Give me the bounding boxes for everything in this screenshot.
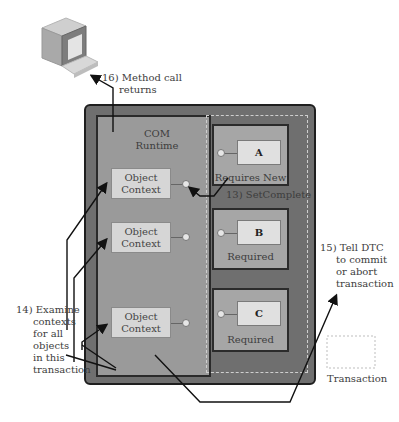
step-14-line: transaction bbox=[16, 364, 91, 376]
step-15-line: to commit bbox=[320, 254, 394, 266]
step-14-label: 14) Examine contexts for all objects in … bbox=[16, 304, 91, 376]
step-14-line: for all bbox=[16, 328, 91, 340]
step-15-line: or abort bbox=[320, 266, 394, 278]
step-15-line: transaction bbox=[320, 278, 394, 290]
step-14-line: in this bbox=[16, 352, 91, 364]
step-16-line2: returns bbox=[102, 84, 182, 96]
step-14-line: 14) Examine bbox=[16, 304, 91, 316]
step-16-label: 16) Method call returns bbox=[102, 72, 182, 96]
legend-transaction-label: Transaction bbox=[327, 373, 387, 385]
step-15-label: 15) Tell DTC to commit or abort transact… bbox=[320, 242, 394, 290]
step-15-line: 15) Tell DTC bbox=[320, 242, 394, 254]
step-14-line: objects bbox=[16, 340, 91, 352]
step-14-line: contexts bbox=[16, 316, 91, 328]
step-16-line1: 16) Method call bbox=[102, 72, 182, 84]
